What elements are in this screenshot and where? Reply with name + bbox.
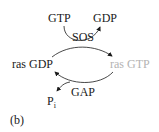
gdp-label: GDP — [93, 12, 117, 24]
gtp-label: GTP — [48, 12, 71, 24]
ras-gtp-label: ras GTP — [110, 58, 150, 70]
pi-release-arrow — [57, 82, 70, 91]
panel-label: (b) — [10, 114, 24, 126]
gap-label: GAP — [71, 86, 95, 98]
activation-arc-arrow — [52, 47, 112, 57]
sos-label: SOS — [72, 31, 94, 43]
inactivation-arc-arrow — [55, 72, 113, 83]
ras-gdp-label: ras GDP — [12, 58, 53, 70]
pi-main: P — [47, 94, 54, 108]
pi-label: Pi — [47, 95, 56, 112]
pi-subscript: i — [54, 101, 56, 110]
